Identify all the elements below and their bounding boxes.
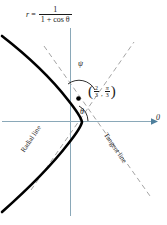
point-open-paren: ( <box>88 86 93 97</box>
point-r-denominator: 3 <box>94 92 99 98</box>
point-theta-denominator: 3 <box>105 92 110 98</box>
point-theta-fraction: π 3 <box>105 85 110 99</box>
theta-angle-label: θ <box>80 108 84 116</box>
equation-equals: = <box>31 10 36 19</box>
equation-fraction: 1 1 + cos θ <box>39 5 72 24</box>
point-comma: , <box>101 90 103 99</box>
marked-point-dot <box>76 96 81 101</box>
polar-axis-label: 0 <box>156 114 160 122</box>
point-close-paren: ) <box>111 86 116 97</box>
equation-numerator: 1 <box>50 5 60 14</box>
psi-angle-label: ψ <box>78 60 83 68</box>
equation-denominator: 1 + cos θ <box>39 15 72 24</box>
marked-point-label: ( 2 3 , π 3 ) <box>88 85 116 99</box>
equation-lhs: r <box>26 10 29 19</box>
curve-equation-label: r = 1 1 + cos θ <box>26 5 72 24</box>
point-r-fraction: 2 3 <box>94 85 99 99</box>
polar-curve-figure: r = 1 1 + cos θ ( 2 3 , π 3 ) ψ θ 0 Radi… <box>0 0 167 225</box>
